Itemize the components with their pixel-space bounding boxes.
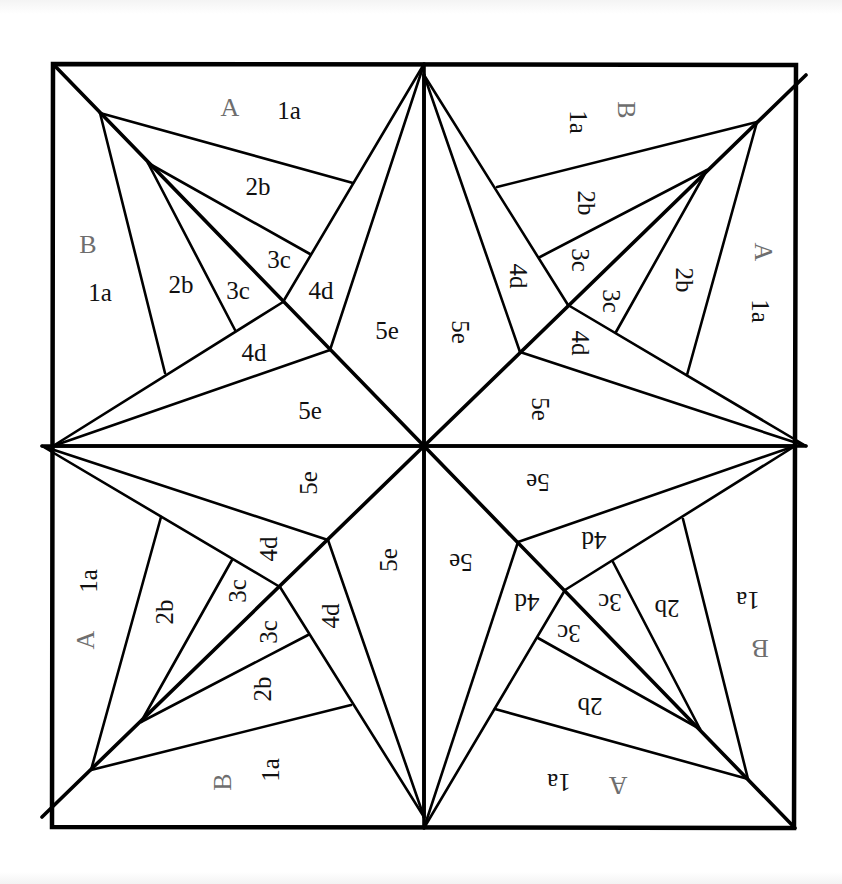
section-label: A [749, 243, 778, 262]
piece-label: 3c [224, 579, 251, 603]
piece-label: 2b [246, 173, 271, 200]
quadrant-top-left: A1a2b3c4d5eB1a2b3c4d5e [53, 64, 424, 446]
seam-line-1a-2b-left [497, 122, 757, 187]
piece-label: 1a [736, 587, 760, 614]
seam-line-1a-2b-left [91, 705, 351, 770]
piece-label: 3c [267, 246, 291, 273]
seam-line-1a-2b-left [683, 519, 748, 779]
quadrant-bottom-right: A1a2b3c4d5eB1a2b3c4d5e [424, 446, 795, 828]
section-label: A [71, 630, 100, 649]
piece-label: 5e [298, 397, 322, 424]
piece-label: 1a [75, 569, 102, 593]
piece-label: 5e [375, 317, 399, 344]
piece-label: 4d [255, 536, 282, 562]
piece-label: 3c [557, 620, 581, 647]
seam-line-1a-2b-top [100, 113, 353, 183]
piece-label: 4d [317, 603, 344, 629]
quadrant-bottom-left: A1a2b3c4d5eB1a2b3c4d5e [42, 446, 424, 817]
piece-label: 1a [88, 279, 112, 306]
seam-line-5e-outer-top [330, 64, 424, 350]
piece-label: 5e [526, 469, 550, 496]
seam-line-5e-outer-top [520, 352, 806, 446]
section-label: A [608, 771, 627, 800]
piece-label: 1a [547, 769, 571, 796]
seam-line-5e-outer-top [42, 446, 328, 540]
piece-label: 4d [505, 264, 532, 290]
seam-line-5e-outer-left [424, 75, 520, 352]
piece-label: 1a [277, 97, 301, 124]
section-label: A [221, 93, 240, 122]
quadrant-top-right: A1a2b3c4d5eB1a2b3c4d5e [424, 75, 806, 446]
seam-line-5e-outer-left [328, 540, 424, 817]
seam-line-4d-outer-left [280, 587, 424, 817]
piece-label: 3c [598, 589, 622, 616]
seam-line-5e-outer-left [53, 350, 330, 446]
quilt-pattern-diagram: A1a2b3c4d5eB1a2b3c4d5eA1a2b3c4d5eB1a2b3c… [0, 0, 842, 884]
section-label: B [612, 101, 641, 118]
piece-label: 5e [527, 397, 554, 421]
piece-label: 4d [309, 277, 335, 304]
piece-label: 2b [671, 268, 698, 293]
seam-line-5e-outer-left [518, 446, 795, 542]
piece-label: 5e [295, 471, 322, 495]
piece-label: 4d [514, 589, 540, 616]
section-label: B [79, 230, 96, 259]
piece-label: 3c [567, 248, 594, 272]
seam-line-4d-outer-left [565, 446, 795, 590]
piece-label: 5e [447, 320, 474, 344]
piece-label: 5e [449, 549, 473, 576]
piece-label: 1a [747, 299, 774, 323]
piece-label: 1a [565, 110, 592, 134]
piece-label: 2b [151, 600, 178, 625]
seam-line-1a-2b-top [495, 709, 748, 779]
quadrant-group: A1a2b3c4d5eB1a2b3c4d5eA1a2b3c4d5eB1a2b3c… [42, 64, 806, 828]
piece-label: 4d [567, 331, 594, 357]
piece-label: 2b [169, 271, 194, 298]
piece-label: 2b [573, 191, 600, 216]
piece-label: 2b [655, 595, 680, 622]
seam-line-4d-outer-left [424, 75, 568, 305]
piece-label: 5e [375, 548, 402, 572]
piece-label: 3c [226, 277, 250, 304]
piece-label: 2b [249, 677, 276, 702]
seam-line-1a-2b-top [91, 517, 161, 770]
piece-label: 4d [581, 527, 607, 554]
section-label: B [751, 634, 768, 663]
seam-line-5e-outer-top [424, 542, 518, 828]
seam-line-1a-2b-left [100, 113, 165, 373]
piece-label: 1a [257, 758, 284, 782]
seam-line-1a-2b-top [687, 122, 757, 375]
seam-line-4d-outer-left [53, 302, 283, 446]
piece-label: 4d [242, 339, 268, 366]
piece-label: 3c [598, 289, 625, 313]
section-label: B [208, 773, 237, 790]
piece-label: 2b [578, 693, 603, 720]
piece-label: 3c [255, 620, 282, 644]
